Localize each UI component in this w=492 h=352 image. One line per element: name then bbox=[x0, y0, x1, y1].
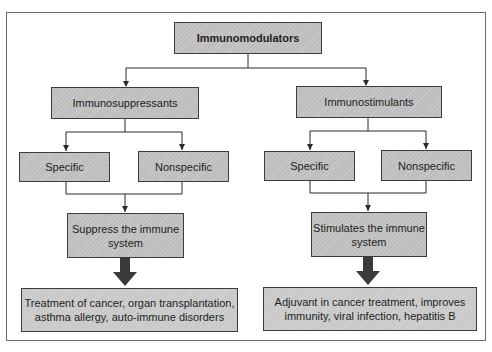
node-stimulates-immune-system: Stimulates the immune system bbox=[311, 212, 427, 257]
node-suppressant-uses: Treatment of cancer, organ transplantati… bbox=[21, 288, 238, 332]
node-label-line1: Suppress the immune bbox=[72, 222, 179, 236]
thick-arrow-icon bbox=[113, 257, 380, 286]
node-label: Immunosuppressants bbox=[72, 96, 177, 110]
node-immunosuppressants: Immunosuppressants bbox=[51, 87, 199, 119]
node-stimulant-uses: Adjuvant in cancer treatment, improves i… bbox=[263, 287, 477, 331]
node-label: Nonspecific bbox=[398, 159, 455, 173]
node-label-line2: immunity, viral infection, hepatitis B bbox=[285, 309, 456, 323]
node-label-line2: system bbox=[108, 236, 143, 250]
node-suppressant-specific: Specific bbox=[19, 152, 110, 182]
node-suppressant-nonspecific: Nonspecific bbox=[138, 151, 229, 182]
node-label: Specific bbox=[45, 160, 84, 174]
node-label-line1: Stimulates the immune bbox=[313, 221, 425, 235]
node-stimulant-specific: Specific bbox=[264, 151, 355, 181]
node-label-line2: asthma allergy, auto-immune disorders bbox=[35, 310, 224, 324]
node-label-line2: system bbox=[352, 235, 387, 249]
node-label: Immunostimulants bbox=[324, 95, 413, 109]
node-stimulant-nonspecific: Nonspecific bbox=[381, 150, 472, 181]
node-suppress-immune-system: Suppress the immune system bbox=[67, 213, 184, 258]
node-label-line1: Adjuvant in cancer treatment, improves bbox=[275, 295, 466, 309]
root-node-immunomodulators: Immunomodulators bbox=[174, 22, 322, 54]
node-immunostimulants: Immunostimulants bbox=[296, 86, 442, 118]
node-label-line1: Treatment of cancer, organ transplantati… bbox=[25, 296, 235, 310]
node-label: Specific bbox=[290, 159, 329, 173]
node-label: Nonspecific bbox=[155, 160, 212, 174]
node-label: Immunomodulators bbox=[197, 31, 300, 45]
